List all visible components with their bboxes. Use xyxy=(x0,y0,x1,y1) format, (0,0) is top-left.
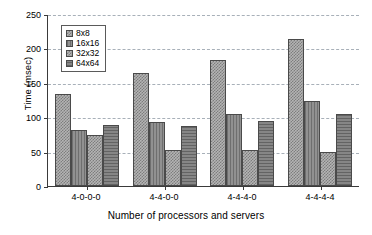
x-tick-mark xyxy=(87,186,88,190)
legend-label: 32x32 xyxy=(76,49,99,58)
x-tick-mark xyxy=(243,186,244,190)
chart-legend: 8x816x1632x3264x64 xyxy=(61,25,106,72)
bar-chart-figure: Time (msec) 050100150200250 4-0-0-04-4-0… xyxy=(0,0,372,235)
legend-item-8x8[interactable]: 8x8 xyxy=(66,29,99,38)
legend-swatch-icon-32x32 xyxy=(66,50,73,57)
bar-4-4-4-0-8x8[interactable] xyxy=(210,60,226,186)
x-tick-label-4-4-4-4: 4-4-4-4 xyxy=(281,192,359,202)
bar-4-0-0-0-32x32[interactable] xyxy=(87,135,103,186)
bar-4-0-0-0-64x64[interactable] xyxy=(103,125,119,186)
x-tick-label-4-4-4-0: 4-4-4-0 xyxy=(203,192,281,202)
legend-label: 16x16 xyxy=(76,39,99,48)
bar-4-4-4-4-64x64[interactable] xyxy=(336,114,352,186)
bar-4-4-4-0-16x16[interactable] xyxy=(226,114,242,186)
bar-4-4-4-4-16x16[interactable] xyxy=(304,101,320,186)
y-tick-label: 150 xyxy=(1,79,41,89)
x-tick-mark xyxy=(165,186,166,190)
legend-item-64x64[interactable]: 64x64 xyxy=(66,59,99,68)
bar-4-4-0-0-8x8[interactable] xyxy=(133,73,149,186)
x-axis-title: Number of processors and servers xyxy=(0,210,372,221)
legend-swatch-icon-16x16 xyxy=(66,40,73,47)
y-tick-label: 100 xyxy=(1,113,41,123)
bar-4-4-4-0-64x64[interactable] xyxy=(258,121,274,186)
y-tick-label: 50 xyxy=(1,148,41,158)
bar-group-4-4-0-0 xyxy=(126,15,204,186)
y-tick-label: 250 xyxy=(1,10,41,20)
y-tick-mark xyxy=(44,187,48,188)
x-axis-tick-labels: 4-0-0-04-4-0-04-4-4-04-4-4-4 xyxy=(47,192,359,202)
bar-group-4-4-4-4 xyxy=(281,15,359,186)
bar-4-4-0-0-32x32[interactable] xyxy=(165,150,181,186)
bar-4-4-0-0-16x16[interactable] xyxy=(149,122,165,186)
legend-item-16x16[interactable]: 16x16 xyxy=(66,39,99,48)
legend-swatch-icon-8x8 xyxy=(66,30,73,37)
bar-4-4-4-4-8x8[interactable] xyxy=(288,39,304,186)
bar-4-4-4-0-32x32[interactable] xyxy=(242,150,258,186)
x-tick-mark xyxy=(321,186,322,190)
x-tick-label-4-0-0-0: 4-0-0-0 xyxy=(47,192,125,202)
legend-label: 8x8 xyxy=(76,29,90,38)
y-tick-label: 0 xyxy=(1,182,41,192)
bar-4-4-0-0-64x64[interactable] xyxy=(181,126,197,186)
legend-label: 64x64 xyxy=(76,59,99,68)
legend-swatch-icon-64x64 xyxy=(66,60,73,67)
x-tick-label-4-4-0-0: 4-4-0-0 xyxy=(125,192,203,202)
bar-4-0-0-0-16x16[interactable] xyxy=(71,130,87,186)
legend-item-32x32[interactable]: 32x32 xyxy=(66,49,99,58)
bar-group-4-4-4-0 xyxy=(204,15,282,186)
bar-4-0-0-0-8x8[interactable] xyxy=(55,94,71,186)
y-tick-label: 200 xyxy=(1,44,41,54)
bar-4-4-4-4-32x32[interactable] xyxy=(320,152,336,186)
